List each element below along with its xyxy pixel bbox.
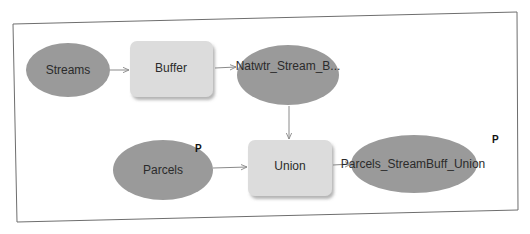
data-ellipse xyxy=(237,45,339,105)
node-parcels-streambuff-union[interactable]: Parcels_StreamBuff_Union P xyxy=(341,134,499,193)
node-label: Parcels xyxy=(143,163,183,177)
node-label: Parcels_StreamBuff_Union xyxy=(341,157,486,171)
parameter-marker: P xyxy=(195,143,202,154)
node-union[interactable]: Union xyxy=(248,140,332,196)
edge-buffer-natwtr[interactable] xyxy=(215,67,236,68)
node-label: Union xyxy=(274,159,305,173)
model-canvas: Streams Buffer Natwtr_Stream_B... Parcel… xyxy=(0,0,530,234)
node-label: Natwtr_Stream_B... xyxy=(236,59,341,73)
node-parcels[interactable]: Parcels P xyxy=(113,140,213,200)
node-label: Streams xyxy=(46,63,91,77)
node-streams[interactable]: Streams xyxy=(26,43,110,97)
node-natwtr-stream-buff[interactable]: Natwtr_Stream_B... xyxy=(236,45,341,105)
edge-parcels-union[interactable] xyxy=(213,167,247,168)
parameter-marker: P xyxy=(492,134,499,145)
node-buffer[interactable]: Buffer xyxy=(130,41,213,97)
node-label: Buffer xyxy=(155,61,187,75)
